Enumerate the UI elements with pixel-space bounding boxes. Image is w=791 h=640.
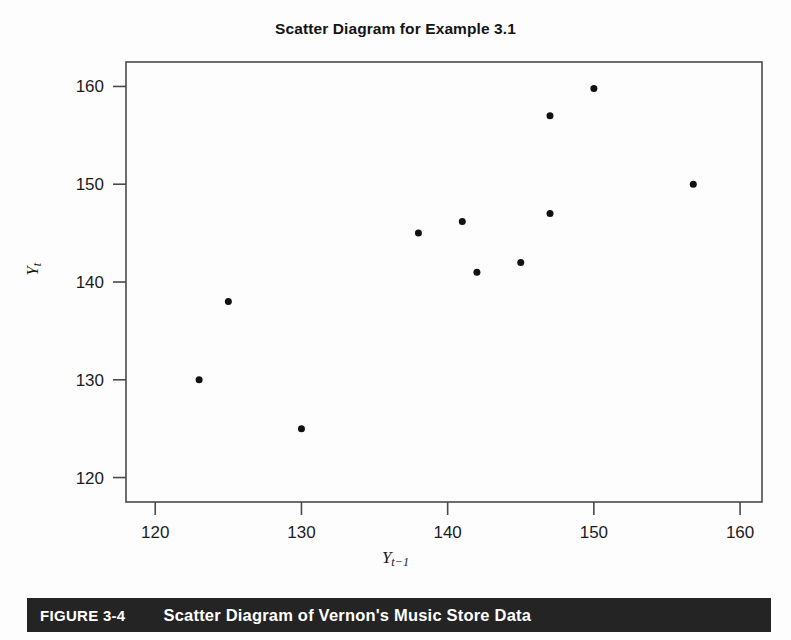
x-tick-label: 140	[433, 523, 461, 542]
scatter-plot-svg: 120130140150160 120130140150160	[0, 0, 791, 586]
figure-caption-title: Scatter Diagram of Vernon's Music Store …	[164, 606, 532, 625]
y-tick-label: 130	[76, 371, 104, 390]
y-axis-label-base: Y	[23, 266, 42, 275]
data-points	[196, 85, 697, 432]
axes-box	[126, 62, 762, 502]
axes-frame	[126, 62, 762, 502]
x-tick-label: 160	[726, 523, 754, 542]
x-tick-label: 130	[287, 523, 315, 542]
x-tick-label: 120	[141, 523, 169, 542]
data-point	[547, 210, 554, 217]
x-axis-label-sub: t−1	[391, 555, 409, 569]
data-point	[517, 259, 524, 266]
data-point	[298, 425, 305, 432]
x-axis-label: Yt−1	[0, 548, 791, 570]
data-point	[459, 218, 466, 225]
data-point	[225, 298, 232, 305]
y-axis-label-sub: t	[30, 263, 44, 266]
data-point	[547, 112, 554, 119]
data-point	[196, 376, 203, 383]
y-tick-label: 120	[76, 469, 104, 488]
x-axis-label-base: Y	[382, 548, 391, 567]
figure-number: FIGURE 3-4	[40, 607, 126, 624]
figure-caption-bar: FIGURE 3-4 Scatter Diagram of Vernon's M…	[27, 598, 771, 632]
data-point	[473, 269, 480, 276]
y-axis-ticks: 120130140150160	[76, 77, 126, 487]
data-point	[415, 230, 422, 237]
plot-area: 120130140150160 120130140150160 Yt Yt−1	[0, 0, 791, 586]
y-tick-label: 150	[76, 175, 104, 194]
y-tick-label: 160	[76, 77, 104, 96]
data-point	[590, 85, 597, 92]
y-axis-label: Yt	[23, 249, 45, 289]
data-point	[690, 181, 697, 188]
y-tick-label: 140	[76, 273, 104, 292]
figure-root: Scatter Diagram for Example 3.1 12013014…	[0, 0, 791, 640]
x-tick-label: 150	[580, 523, 608, 542]
x-axis-ticks: 120130140150160	[141, 502, 754, 542]
